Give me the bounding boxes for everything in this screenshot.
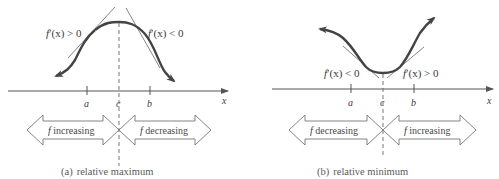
derivative-label-positive: f′(x) > 0 [403, 67, 439, 80]
arrow-label-decreasing: f decreasing [140, 125, 188, 136]
x-axis-label: x [221, 95, 227, 106]
caption-relative-maximum: (a)relative maximum [61, 166, 153, 178]
panel-relative-maximum: x a c b f′(x) > 0 f′(x) < 0 f increasing… [8, 7, 228, 178]
panel-relative-minimum: x a c b f′(x) < 0 f′(x) > 0 f decreasing… [272, 18, 493, 178]
caption-relative-minimum: (b)relative minimum [317, 166, 408, 178]
tick-label-b: b [411, 97, 416, 108]
tick-label-a: a [84, 98, 89, 109]
tick-label-c: c [116, 98, 121, 109]
arrow-label-decreasing: f decreasing [310, 125, 358, 136]
tick-label-a: a [348, 97, 353, 108]
derivative-label-negative: f′(x) < 0 [324, 67, 360, 80]
tick-label-b: b [147, 98, 152, 109]
derivative-label-negative: f′(x) < 0 [148, 27, 184, 40]
extrema-diagram: x a c b f′(x) > 0 f′(x) < 0 f increasing… [0, 0, 499, 179]
tick-label-c: c [380, 97, 385, 108]
arrow-label-increasing: f increasing [404, 125, 450, 136]
arrow-label-increasing: f increasing [48, 125, 94, 136]
x-axis-label: x [486, 95, 492, 106]
function-curve-minimum-right [383, 18, 434, 73]
derivative-label-positive: f′(x) > 0 [46, 27, 82, 40]
